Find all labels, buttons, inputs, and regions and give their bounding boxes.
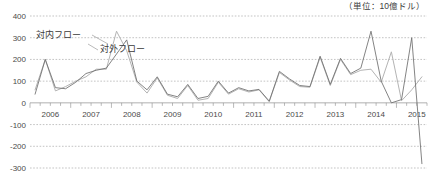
x-axis-tick-label: 2013 bbox=[326, 110, 344, 119]
series-line-inward bbox=[35, 31, 422, 102]
line-chart: （単位：10億ドル） 4003002001000-100-200-300 200… bbox=[0, 0, 429, 174]
x-axis-tick-label: 2008 bbox=[123, 110, 141, 119]
y-axis-tick-label: 0 bbox=[22, 99, 27, 108]
y-axis-tick-label: 400 bbox=[13, 12, 27, 21]
gridlines-group bbox=[30, 16, 427, 168]
y-axis-tick-label: 200 bbox=[13, 55, 27, 64]
x-axis-labels-group: 2006200720082009201020112012201320142015 bbox=[41, 110, 426, 119]
x-axis-tick-label: 2006 bbox=[41, 110, 59, 119]
y-axis-tick-label: -100 bbox=[10, 121, 27, 130]
x-tickmarks-group bbox=[30, 103, 427, 108]
y-axis-tick-label: -300 bbox=[10, 164, 27, 173]
x-axis-tick-label: 2012 bbox=[286, 110, 304, 119]
x-axis-tick-label: 2009 bbox=[164, 110, 182, 119]
y-axis-tick-label: -200 bbox=[10, 142, 27, 151]
x-axis-tick-label: 2007 bbox=[82, 110, 100, 119]
series-annotation-outward: 対外フロー bbox=[100, 43, 145, 54]
series-annotation-inward: 対内フロー bbox=[36, 29, 81, 40]
x-axis-tick-label: 2011 bbox=[245, 110, 263, 119]
annotation-leader-inward bbox=[92, 35, 108, 44]
x-axis-tick-label: 2010 bbox=[204, 110, 222, 119]
x-axis-tick-label: 2014 bbox=[367, 110, 385, 119]
y-axis-tick-label: 100 bbox=[13, 77, 27, 86]
y-axis-tick-label: 300 bbox=[13, 34, 27, 43]
series-line-outward bbox=[35, 31, 422, 163]
annotation-leader-outward bbox=[88, 44, 98, 50]
series-annotations-group: 対内フロー対外フロー bbox=[36, 29, 145, 54]
chart-canvas: 4003002001000-100-200-300 20062007200820… bbox=[0, 0, 429, 174]
x-axis-tick-label: 2015 bbox=[408, 110, 426, 119]
y-axis-labels-group: 4003002001000-100-200-300 bbox=[10, 12, 27, 173]
series-lines-group bbox=[35, 31, 422, 163]
